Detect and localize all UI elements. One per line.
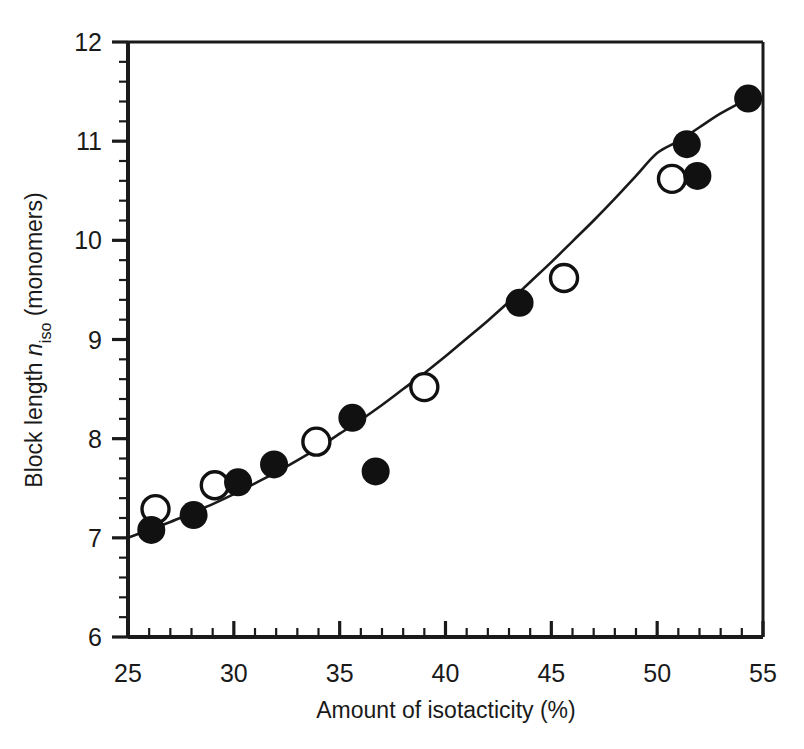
- data-point-filled: [506, 289, 534, 317]
- chart-figure: 25303540455055 6789101112 Amount of isot…: [0, 0, 804, 749]
- data-point-filled: [260, 450, 288, 478]
- data-point-filled: [362, 457, 390, 485]
- data-point-open: [303, 428, 330, 455]
- x-tick-label: 45: [537, 659, 565, 687]
- data-point-filled: [137, 516, 165, 544]
- x-axis-title: Amount of isotacticity (%): [316, 697, 575, 723]
- y-axis-title: Block length niso (monomers): [21, 192, 54, 487]
- y-tick-label: 9: [88, 326, 102, 354]
- data-point-open: [411, 374, 438, 401]
- x-tick-label: 50: [643, 659, 671, 687]
- y-axis-ticks: [112, 42, 128, 637]
- data-point-open: [551, 265, 578, 292]
- x-axis-ticks: [128, 621, 763, 637]
- data-point-filled: [338, 404, 366, 432]
- x-tick-label: 40: [432, 659, 460, 687]
- x-axis-tick-labels: 25303540455055: [114, 659, 777, 687]
- y-tick-label: 7: [88, 524, 102, 552]
- x-tick-label: 55: [749, 659, 777, 687]
- data-point-filled: [180, 501, 208, 529]
- svg-text:Block length niso (monomers): Block length niso (monomers): [21, 192, 54, 487]
- y-tick-label: 12: [74, 28, 102, 56]
- plot-frame: [128, 42, 763, 637]
- data-markers: [137, 85, 762, 544]
- data-point-filled: [683, 162, 711, 190]
- data-point-filled: [673, 130, 701, 158]
- x-tick-label: 25: [114, 659, 142, 687]
- x-tick-label: 35: [326, 659, 354, 687]
- y-tick-label: 6: [88, 623, 102, 651]
- x-tick-label: 30: [220, 659, 248, 687]
- data-point-filled: [734, 85, 762, 113]
- y-axis-tick-labels: 6789101112: [74, 28, 102, 651]
- scatter-plot: 25303540455055 6789101112 Amount of isot…: [0, 0, 804, 749]
- y-tick-label: 11: [76, 127, 102, 155]
- data-point-filled: [224, 468, 252, 496]
- y-tick-label: 10: [74, 226, 102, 254]
- data-point-open: [201, 472, 228, 499]
- y-tick-label: 8: [88, 425, 102, 453]
- data-point-open: [658, 165, 685, 192]
